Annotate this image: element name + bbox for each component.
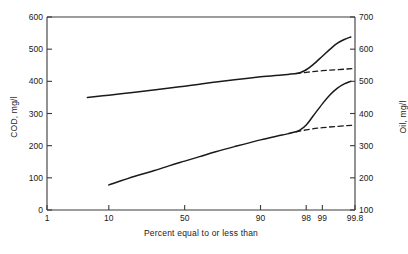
left-tick-label-600: 600 <box>17 12 43 22</box>
left-axis-ticks <box>47 17 52 210</box>
x-tick-label-10: 10 <box>92 213 126 223</box>
right-tick-label-300: 300 <box>359 141 389 151</box>
left-tick-label-100: 100 <box>17 173 43 183</box>
x-tick-label-90: 90 <box>244 213 278 223</box>
series-path-oil <box>109 81 351 185</box>
bottom-axis-ticks <box>47 205 355 210</box>
right-tick-label-600: 600 <box>359 44 389 54</box>
left-tick-label-500: 500 <box>17 44 43 54</box>
axis-frame <box>47 17 355 210</box>
data-series-layer <box>87 37 355 185</box>
right-axis-ticks <box>350 17 355 210</box>
x-tick-label-99: 99 <box>305 213 339 223</box>
right-tick-label-400: 400 <box>359 109 389 119</box>
right-tick-label-700: 700 <box>359 12 389 22</box>
right-tick-label-500: 500 <box>359 76 389 86</box>
x-tick-label-50: 50 <box>168 213 202 223</box>
left-tick-label-200: 200 <box>17 141 43 151</box>
left-tick-label-300: 300 <box>17 109 43 119</box>
x-tick-label-1: 1 <box>30 213 64 223</box>
right-axis-label: Oil, mg/l <box>398 82 408 152</box>
left-tick-label-400: 400 <box>17 76 43 86</box>
x-axis-label: Percent equal to or less than <box>47 228 355 238</box>
x-tick-label-99.8: 99.8 <box>338 213 372 223</box>
series-path-cod <box>87 37 350 97</box>
right-tick-label-200: 200 <box>359 173 389 183</box>
